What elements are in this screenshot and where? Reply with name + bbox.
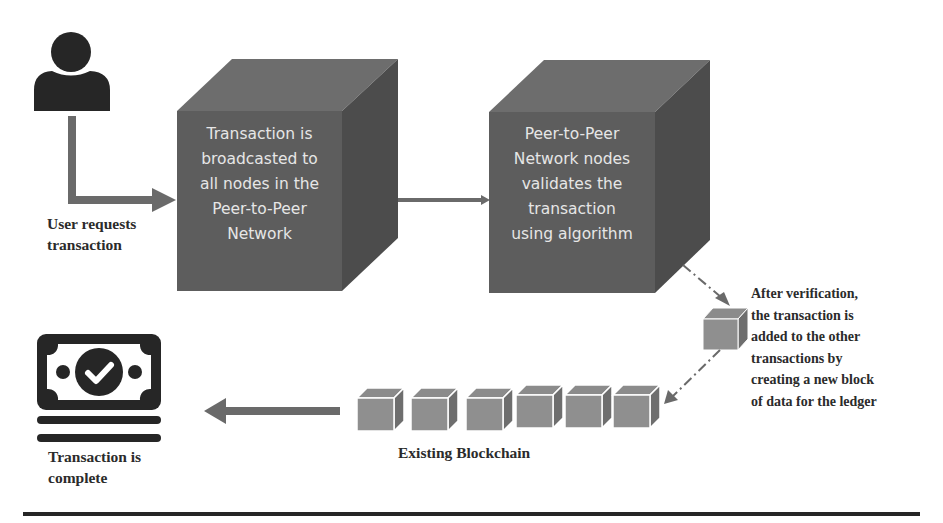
validate-cube-text: Peer-to-Peer Network nodes validates the… [489, 122, 655, 247]
chain-block [516, 385, 563, 428]
new-block-line: creating a new block [751, 369, 877, 391]
new-block-line: added to the other [751, 326, 877, 348]
chain-block [613, 385, 660, 428]
user-label: User requests transaction [47, 213, 136, 255]
validate-line: validates the [489, 172, 655, 197]
broadcast-line: all nodes in the [177, 172, 342, 197]
blockchain-label: Existing Blockchain [398, 443, 530, 463]
new-block-line: the transaction is [751, 305, 877, 327]
user-label-line: User requests [47, 213, 136, 234]
complete-arrow [204, 398, 340, 424]
append-arrow [664, 350, 720, 404]
broadcast-line: Network [177, 222, 342, 247]
new-block-line: After verification, [751, 283, 877, 305]
complete-label: Transaction is complete [48, 446, 141, 488]
money-check-icon [37, 334, 161, 442]
chain-block [411, 388, 458, 431]
user-label-line: transaction [47, 234, 136, 255]
blockchain-diagram: User requests transaction Transaction is… [0, 0, 943, 523]
complete-label-line: Transaction is [48, 446, 141, 467]
validate-line: Peer-to-Peer [489, 122, 655, 147]
chain-block [565, 385, 612, 428]
request-arrow [72, 116, 176, 212]
new-block-line: transactions by [751, 348, 877, 370]
broadcast-arrow [398, 195, 490, 205]
broadcast-line: broadcasted to [177, 147, 342, 172]
validate-line: Network nodes [489, 147, 655, 172]
validate-line: using algorithm [489, 222, 655, 247]
new-block-line: of data for the ledger [751, 391, 877, 413]
broadcast-line: Peer-to-Peer [177, 197, 342, 222]
broadcast-line: Transaction is [177, 122, 342, 147]
broadcast-cube-text: Transaction is broadcasted to all nodes … [177, 122, 342, 247]
existing-blockchain [357, 385, 660, 431]
validate-line: transaction [489, 197, 655, 222]
chain-block [466, 388, 513, 431]
verify-arrow [683, 265, 730, 306]
complete-label-line: complete [48, 467, 141, 488]
user-icon [34, 32, 110, 111]
chain-block [357, 388, 404, 431]
new-block-label: After verification, the transaction is a… [751, 283, 877, 412]
new-block [703, 308, 748, 350]
